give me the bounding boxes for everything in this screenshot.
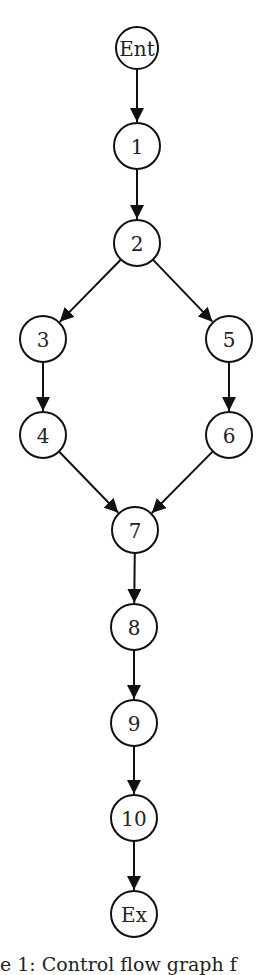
node-3: 3 [20,316,66,362]
node-5: 5 [206,316,252,362]
node-7: 7 [112,507,158,553]
nodes: Ent12354678910Ex [20,27,252,937]
node-label: 2 [131,232,144,256]
node-label: 8 [128,616,141,640]
node-label: 5 [223,328,236,352]
node-6: 6 [206,412,252,458]
node-ex: Ex [111,891,157,937]
node-label: Ex [121,903,148,927]
node-label: 7 [129,519,142,543]
node-ent: Ent [116,27,158,69]
node-label: 4 [37,424,50,448]
edges [43,69,229,890]
node-1: 1 [114,123,160,169]
node-label: 3 [37,328,50,352]
edge-4-to-7 [59,452,118,513]
edge-2-to-5 [153,260,212,322]
edge-6-to-7 [152,451,213,513]
node-label: 1 [131,135,144,159]
node-label: Ent [119,37,155,61]
edge-2-to-3 [60,259,121,321]
node-10: 10 [111,795,157,841]
node-label: 6 [223,424,236,448]
edge-7-to-8 [134,553,135,603]
node-4: 4 [20,412,66,458]
node-9: 9 [111,700,157,746]
node-label: 9 [128,712,141,736]
node-2: 2 [114,220,160,266]
node-8: 8 [111,604,157,650]
figure-caption: e 1: Control flow graph f [0,953,272,975]
node-label: 10 [121,807,146,831]
